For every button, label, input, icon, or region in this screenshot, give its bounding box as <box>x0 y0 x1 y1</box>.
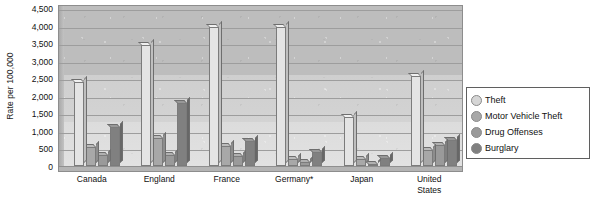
legend-label: Theft <box>485 95 506 105</box>
bar-front-face <box>74 82 84 166</box>
y-axis-tick-label: 0 <box>48 163 53 172</box>
bar-group <box>411 8 457 166</box>
bar <box>165 155 175 166</box>
plot-floor <box>59 166 462 171</box>
bar-front-face <box>423 150 433 166</box>
y-axis-tick-label: 1,000 <box>32 128 53 137</box>
bar-front-face <box>153 138 163 166</box>
bar <box>447 140 457 166</box>
bar-front-face <box>276 27 286 166</box>
bar-front-face <box>344 117 354 166</box>
bar-front-face <box>86 147 96 166</box>
x-axis-category-label: England <box>126 174 194 185</box>
bar-group <box>74 8 120 166</box>
bar-chart: Rate per 100,000 4,5004,0003,5003,0002,5… <box>0 0 592 198</box>
bar <box>209 27 219 166</box>
bar-front-face <box>221 146 231 166</box>
legend-item: Theft <box>471 92 586 108</box>
bar <box>276 27 286 166</box>
x-axis-category-label: Canada <box>58 174 126 185</box>
bar-side-face <box>354 111 357 163</box>
x-axis-category-labels: CanadaEnglandFranceGermany*JapanUnited S… <box>58 174 463 198</box>
x-axis-category-label: Japan <box>328 174 396 185</box>
bar <box>300 162 310 166</box>
plot-left-wall <box>59 6 64 171</box>
bar-side-face <box>120 121 123 163</box>
bar <box>110 127 120 166</box>
bar <box>98 155 108 166</box>
y-axis-tick-label: 3,000 <box>32 57 53 66</box>
legend-label: Motor Vehicle Theft <box>485 111 562 121</box>
bar <box>177 103 187 166</box>
x-axis-category-label: Germany* <box>261 174 329 185</box>
chart-legend: TheftMotor Vehicle TheftDrug OffensesBur… <box>466 87 590 159</box>
x-axis-category-label: United States <box>396 174 464 195</box>
legend-label: Burglary <box>485 143 519 153</box>
bar-front-face <box>233 156 243 166</box>
y-axis-title-text: Rate per 100,000 <box>5 52 15 119</box>
bar-side-face <box>445 139 448 163</box>
bar <box>245 141 255 166</box>
bar <box>221 146 231 166</box>
bar <box>344 117 354 166</box>
bar-side-face <box>96 141 99 163</box>
y-axis-tick-label: 4,000 <box>32 22 53 31</box>
bar-side-face <box>151 39 154 163</box>
bar-front-face <box>411 76 421 166</box>
bar-front-face <box>380 158 390 166</box>
legend-label: Drug Offenses <box>485 127 543 137</box>
bar-side-face <box>187 97 190 163</box>
bar-side-face <box>421 70 424 163</box>
y-axis-tick-label: 1,500 <box>32 110 53 119</box>
bar <box>288 159 298 166</box>
bar <box>411 76 421 166</box>
bar-group <box>344 8 390 166</box>
legend-swatch-drug-offenses <box>471 127 482 138</box>
bar-group <box>141 8 187 166</box>
y-axis-tick-label: 2,500 <box>32 75 53 84</box>
bar-front-face <box>98 155 108 166</box>
y-axis-tick-label: 3,500 <box>32 40 53 49</box>
y-axis-tick-label: 500 <box>39 145 53 154</box>
bar-front-face <box>312 152 322 166</box>
bar <box>435 145 445 166</box>
y-axis-title: Rate per 100,000 <box>0 0 20 172</box>
bar <box>423 150 433 166</box>
bar <box>233 156 243 166</box>
x-axis-category-label: France <box>193 174 261 185</box>
legend-swatch-burglary <box>471 143 482 154</box>
bar <box>86 147 96 166</box>
bar-front-face <box>165 155 175 166</box>
bar <box>312 152 322 166</box>
plot-area <box>58 5 463 172</box>
bar-front-face <box>209 27 219 166</box>
bar-front-face <box>177 103 187 166</box>
bar-group <box>276 8 322 166</box>
bar <box>356 159 366 166</box>
bar <box>141 45 151 166</box>
bar-front-face <box>245 141 255 166</box>
legend-swatch-theft <box>471 95 482 106</box>
legend-swatch-motor-vehicle-theft <box>471 111 482 122</box>
bar-group <box>209 8 255 166</box>
legend-item: Motor Vehicle Theft <box>471 108 586 124</box>
bar-front-face <box>368 164 378 166</box>
bar-front-face <box>435 145 445 166</box>
legend-item: Drug Offenses <box>471 124 586 140</box>
bar-front-face <box>141 45 151 166</box>
y-axis-tick-label: 2,000 <box>32 93 53 102</box>
bar <box>153 138 163 166</box>
legend-item: Burglary <box>471 140 586 156</box>
bar <box>368 164 378 166</box>
bar-front-face <box>288 159 298 166</box>
bar-side-face <box>163 132 166 163</box>
bar-front-face <box>356 159 366 166</box>
y-axis-tick-label: 4,500 <box>32 5 53 14</box>
bar-side-face <box>231 140 234 163</box>
bar <box>380 158 390 166</box>
bar-front-face <box>300 162 310 166</box>
y-axis-tick-labels: 4,5004,0003,5003,0002,5002,0001,5001,000… <box>20 0 56 172</box>
bar-front-face <box>110 127 120 166</box>
bar-front-face <box>447 140 457 166</box>
bar <box>74 82 84 166</box>
